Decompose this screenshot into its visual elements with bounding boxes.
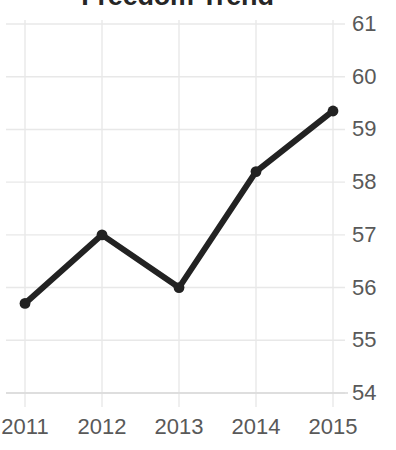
y-tick-label: 54: [352, 382, 396, 404]
plot-area: [0, 0, 396, 450]
y-tick-label: 57: [352, 224, 396, 246]
vertical-gridlines: [25, 20, 333, 407]
y-tick-label: 59: [352, 118, 396, 140]
y-tick-label: 58: [352, 171, 396, 193]
y-tick-label: 55: [352, 329, 396, 351]
x-tick-label: 2015: [288, 415, 378, 439]
chart-container: Freedom Trend 6160595857565554 201120122…: [0, 0, 396, 450]
y-tick-label: 60: [352, 66, 396, 88]
horizontal-gridlines: [6, 24, 345, 393]
y-tick-label: 61: [352, 13, 396, 35]
y-tick-label: 56: [352, 277, 396, 299]
line-chart-svg: [0, 0, 396, 450]
